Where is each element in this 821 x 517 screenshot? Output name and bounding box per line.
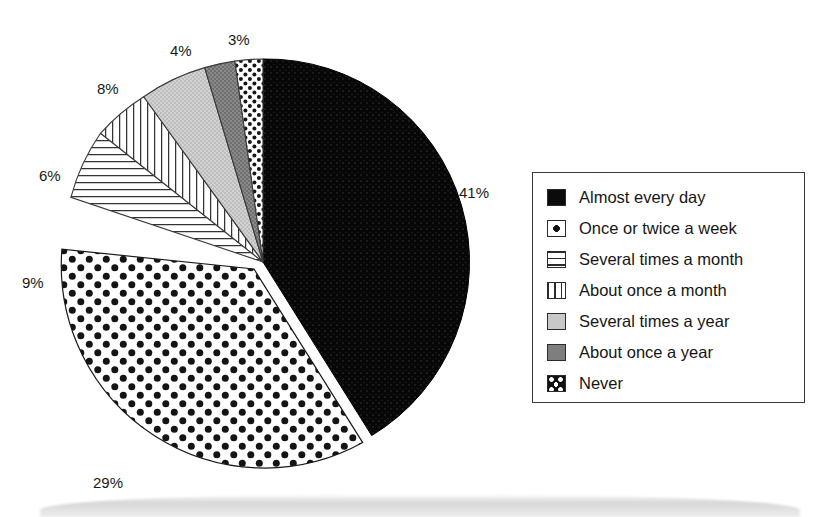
legend-item-list: Almost every day Once or twice a week Se… [547, 182, 798, 399]
legend-item-label: Almost every day [579, 189, 706, 206]
pie-chart-figure: 41% 29% 9% 6% 8% 4% 3% Almost every day … [0, 0, 821, 517]
dots-on-black-swatch-icon [547, 375, 566, 392]
legend-item-label: Once or twice a week [579, 220, 737, 237]
legend-item-about-once-a-year[interactable]: About once a year [547, 337, 798, 368]
chart-legend: Almost every day Once or twice a week Se… [532, 172, 805, 403]
legend-item-label: Several times a year [579, 313, 729, 330]
scan-shadow-artifact [40, 494, 800, 517]
legend-item-label: About once a month [579, 282, 727, 299]
solid-black-swatch-icon [547, 189, 566, 206]
data-label-4-percent: 4% [170, 42, 192, 59]
legend-item-label: Never [579, 375, 623, 392]
legend-item-never[interactable]: Never [547, 368, 798, 399]
data-label-41-percent: 41% [459, 184, 489, 201]
center-dot-swatch-icon [547, 220, 566, 237]
data-label-3-percent: 3% [228, 31, 250, 48]
legend-item-several-times-a-year[interactable]: Several times a year [547, 306, 798, 337]
vertical-lines-swatch-icon [547, 282, 566, 299]
legend-item-label: About once a year [579, 344, 713, 361]
legend-item-label: Several times a month [579, 251, 743, 268]
legend-item-about-once-a-month[interactable]: About once a month [547, 275, 798, 306]
legend-item-once-or-twice-a-week[interactable]: Once or twice a week [547, 213, 798, 244]
pie-slices [61, 59, 469, 468]
data-label-9-percent: 9% [22, 274, 44, 291]
light-gray-swatch-icon [547, 313, 566, 330]
medium-gray-swatch-icon [547, 344, 566, 361]
data-label-6-percent: 6% [39, 167, 61, 184]
legend-item-almost-every-day[interactable]: Almost every day [547, 182, 798, 213]
legend-item-several-times-a-month[interactable]: Several times a month [547, 244, 798, 275]
horizontal-lines-swatch-icon [547, 251, 566, 268]
data-label-8-percent: 8% [97, 80, 119, 97]
data-label-29-percent: 29% [93, 474, 123, 491]
